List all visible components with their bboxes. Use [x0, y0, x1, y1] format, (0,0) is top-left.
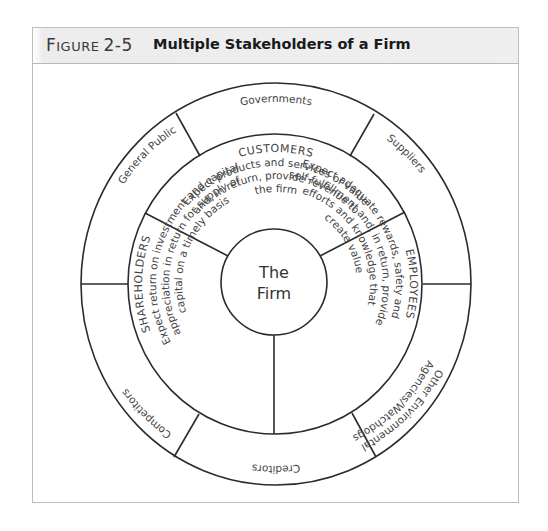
inner-circle	[221, 229, 327, 335]
outer-divider	[350, 114, 374, 156]
center-label-the: The	[258, 263, 289, 282]
outer-divider	[176, 113, 200, 156]
label-creditors: Creditors	[251, 462, 301, 476]
label-governments: Governments	[239, 92, 313, 107]
shareholders-line: appreciation in return for supply of	[159, 173, 242, 337]
stakeholder-diagram: Governments Suppliers Other Environmenta…	[0, 0, 548, 531]
customers-line: the firm	[253, 182, 298, 196]
label-suppliers: Suppliers	[385, 131, 429, 175]
outer-divider	[174, 414, 199, 457]
center-label-firm: Firm	[257, 284, 291, 303]
label-general-public: General Public	[115, 123, 178, 186]
